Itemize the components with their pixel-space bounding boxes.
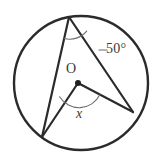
radius-center-to-right: [78, 83, 133, 112]
center-label: O: [66, 62, 76, 76]
geometry-canvas: [0, 0, 163, 166]
geometry-figure: O x 50°: [0, 0, 163, 166]
unknown-angle-label: x: [76, 107, 82, 121]
chord-top-to-bottom-left: [42, 17, 69, 137]
known-angle-label: 50°: [106, 42, 127, 56]
center-point-dot: [75, 80, 81, 86]
